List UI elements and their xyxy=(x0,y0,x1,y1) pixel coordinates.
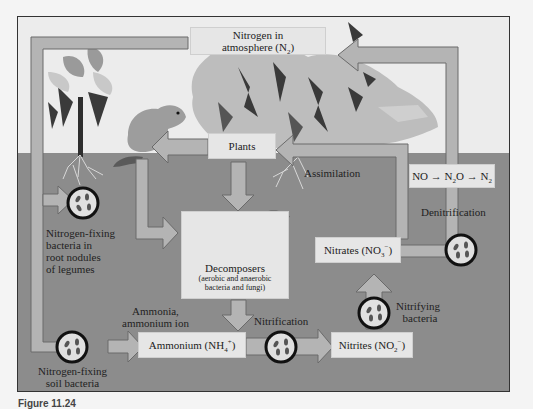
decomposers-label: Decomposers xyxy=(205,262,265,274)
ammonium-box: Ammonium (NH4+) xyxy=(138,332,246,358)
decomposers-detail-line1: (aerobic and anaerobic xyxy=(199,274,272,283)
denitrification-label: Denitrification xyxy=(421,206,486,218)
decomposers-box: Decomposers (aerobic and anaerobic bacte… xyxy=(181,211,289,299)
bacteria-icon xyxy=(446,235,476,265)
atmosphere-label-line1: Nitrogen in xyxy=(233,29,283,41)
denitrification-chain-label: NO → N2O → N2 xyxy=(412,170,492,182)
plants-box: Plants xyxy=(208,133,276,159)
assimilation-label: Assimilation xyxy=(304,167,360,179)
bacteria-icon xyxy=(57,332,87,362)
nitrates-label: Nitrates (NO3−) xyxy=(324,244,392,256)
nitrites-box: Nitrites (NO2−) xyxy=(331,332,413,358)
nitrites-label: Nitrites (NO2−) xyxy=(339,339,405,351)
nitrates-box: Nitrates (NO3−) xyxy=(315,237,401,263)
arrow-nitrates-to-denitrifiers xyxy=(400,245,446,257)
nitrification-label: Nitrification xyxy=(254,315,308,327)
nitrifying-bacteria-label: Nitrifying bacteria xyxy=(396,300,440,324)
denitrification-chain-box: NO → N2O → N2 xyxy=(409,164,495,188)
bacteria-icon xyxy=(359,298,389,328)
diagram-frame: Nitrogen in atmosphere (N2) Plants Decom… xyxy=(17,16,510,392)
figure-caption: Figure 11.24 xyxy=(18,398,76,409)
plants-label: Plants xyxy=(229,140,256,152)
atmosphere-box: Nitrogen in atmosphere (N2) xyxy=(190,27,326,55)
ammonium-label: Ammonium (NH4+) xyxy=(149,339,236,351)
decomposers-detail-line2: bacteria and fungi) xyxy=(205,283,265,292)
root-nodule-bacteria-label: Nitrogen-fixing bacteria in root nodules… xyxy=(46,227,115,275)
nitrogen-cycle-diagram xyxy=(18,17,510,392)
bacteria-icon xyxy=(266,332,296,362)
bacteria-icon xyxy=(68,188,98,218)
ammonia-label: Ammonia, ammonium ion xyxy=(122,305,189,329)
atmosphere-label-line2: atmosphere (N2) xyxy=(222,41,294,53)
soil-bacteria-label: Nitrogen-fixing soil bacteria xyxy=(38,365,107,389)
